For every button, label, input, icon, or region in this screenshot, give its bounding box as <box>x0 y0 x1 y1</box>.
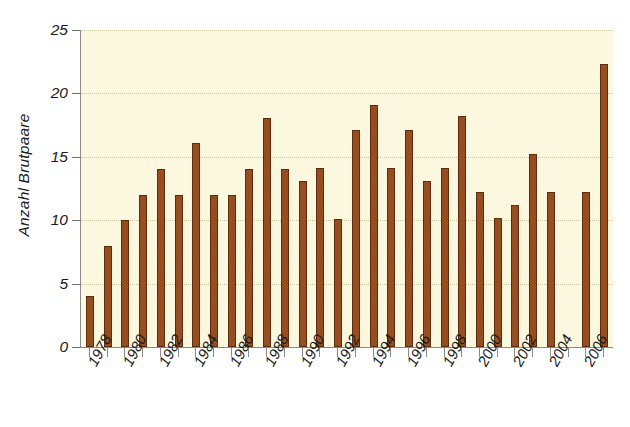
y-tick-5 <box>72 284 80 285</box>
x-tick-1982 <box>160 348 161 357</box>
x-tick-2002 <box>514 348 515 357</box>
x-tick-1985 <box>213 348 214 357</box>
y-tick-25 <box>72 30 80 31</box>
x-tick-1981 <box>142 348 143 357</box>
x-tick-2007 <box>603 348 604 357</box>
x-tick-2004 <box>550 348 551 357</box>
y-tick-20 <box>72 93 80 94</box>
x-tick-1991 <box>319 348 320 357</box>
x-tick-2006 <box>585 348 586 357</box>
x-tick-1980 <box>124 348 125 357</box>
y-tick-15 <box>72 157 80 158</box>
x-tick-1978 <box>89 348 90 357</box>
x-tick-1990 <box>302 348 303 357</box>
x-tick-1996 <box>408 348 409 357</box>
x-tick-2001 <box>497 348 498 357</box>
x-tick-1989 <box>284 348 285 357</box>
x-tick-1994 <box>373 348 374 357</box>
x-tick-2003 <box>532 348 533 357</box>
x-tick-1988 <box>266 348 267 357</box>
x-tick-1997 <box>426 348 427 357</box>
y-tick-0 <box>72 347 80 348</box>
x-tick-1995 <box>390 348 391 357</box>
x-tick-1984 <box>195 348 196 357</box>
x-tick-1993 <box>355 348 356 357</box>
bar-chart: Anzahl Brutpaare 0510152025 197819801982… <box>0 0 630 427</box>
x-tick-1987 <box>248 348 249 357</box>
x-tick-2005 <box>568 348 569 357</box>
x-tick-1986 <box>231 348 232 357</box>
x-tick-1999 <box>461 348 462 357</box>
x-tick-2000 <box>479 348 480 357</box>
x-tick-1979 <box>107 348 108 357</box>
x-tick-1983 <box>178 348 179 357</box>
x-axis-labels: 1978198019821984198619881990199219941996… <box>0 0 630 427</box>
x-tick-1992 <box>337 348 338 357</box>
y-tick-10 <box>72 220 80 221</box>
x-tick-1998 <box>444 348 445 357</box>
